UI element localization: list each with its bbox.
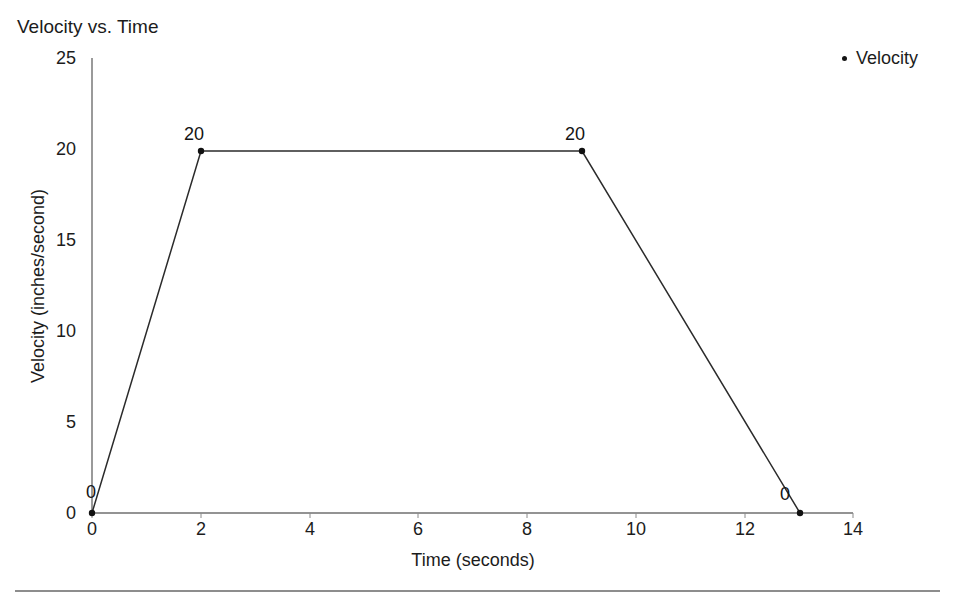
x-tick-label-0: 0 bbox=[72, 519, 112, 539]
data-label-peak-start: 20 bbox=[179, 124, 209, 144]
velocity-line bbox=[92, 151, 800, 513]
data-label-peak-end: 20 bbox=[560, 124, 590, 144]
y-tick-label-25: 25 bbox=[36, 48, 76, 68]
x-tick-label-12: 12 bbox=[725, 519, 765, 539]
x-tick-label-6: 6 bbox=[398, 519, 438, 539]
y-axis-title: Velocity (inches/second) bbox=[27, 156, 49, 416]
x-tick-label-14: 14 bbox=[833, 519, 873, 539]
x-tick-label-4: 4 bbox=[290, 519, 330, 539]
data-label-end: 0 bbox=[770, 484, 800, 504]
x-axis-ticks bbox=[92, 513, 853, 518]
y-tick-label-0: 0 bbox=[36, 503, 76, 523]
data-label-origin: 0 bbox=[76, 482, 106, 502]
plot-area bbox=[0, 0, 962, 604]
x-tick-label-8: 8 bbox=[507, 519, 547, 539]
velocity-vs-time-chart: Velocity vs. Time Velocity 25 bbox=[0, 0, 962, 604]
footer-divider bbox=[15, 590, 940, 592]
velocity-data-points bbox=[89, 148, 803, 516]
x-tick-label-10: 10 bbox=[616, 519, 656, 539]
x-axis-title: Time (seconds) bbox=[0, 549, 946, 571]
x-tick-label-2: 2 bbox=[181, 519, 221, 539]
